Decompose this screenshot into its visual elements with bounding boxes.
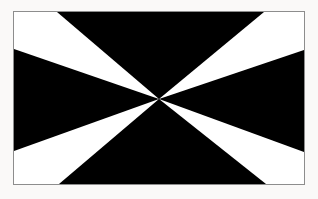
image-canvas bbox=[0, 0, 318, 199]
flag-border bbox=[13, 11, 305, 185]
flag-artwork bbox=[14, 12, 304, 184]
